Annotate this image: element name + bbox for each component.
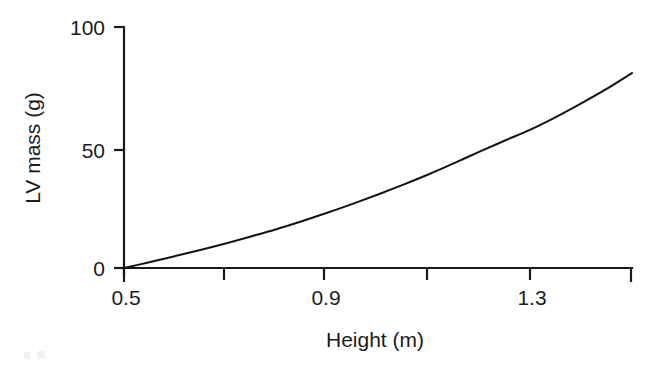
scan-speck: [37, 351, 45, 359]
x-axis-title: Height (m): [326, 328, 424, 351]
x-tick-label-1.3: 1.3: [517, 286, 546, 309]
x-tick-label-0.9: 0.9: [311, 286, 340, 309]
y-tick-label-50: 50: [82, 139, 105, 162]
lv-mass-vs-height-chart: 100 50 0 0.5 0.9 1.3 LV mass (g) Height …: [0, 0, 661, 372]
scan-speck: [24, 352, 30, 359]
y-tick-label-0: 0: [93, 257, 105, 280]
lv-mass-curve: [124, 73, 632, 268]
chart-figure: 100 50 0 0.5 0.9 1.3 LV mass (g) Height …: [0, 0, 661, 372]
x-tick-label-0.5: 0.5: [111, 286, 140, 309]
y-axis-title: LV mass (g): [21, 92, 44, 204]
y-tick-label-100: 100: [70, 16, 105, 39]
